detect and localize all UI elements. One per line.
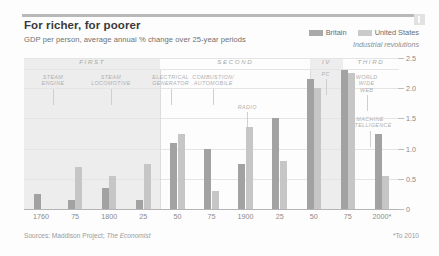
source-note: Sources: Maddison Project; The Economist (24, 232, 150, 239)
bar-united-states (144, 164, 151, 209)
y-tick-label: 0 (406, 205, 410, 214)
x-tick-label: 50 (173, 212, 181, 221)
bar-britain (238, 164, 245, 209)
corner-badge-icon (414, 14, 425, 25)
bar-britain (102, 188, 109, 209)
y-tick-label: 0.5 (406, 174, 416, 183)
legend-item-britain: Britain (309, 28, 347, 37)
chart-page: For richer, for poorer GDP per person, a… (0, 0, 439, 256)
bar-united-states (348, 73, 355, 209)
page-subtitle: GDP per person, average annual % change … (24, 35, 246, 44)
x-tick-label: 25 (276, 212, 284, 221)
bar-britain (68, 200, 75, 209)
x-axis: 176075180025507519002550752000* (24, 212, 399, 224)
gridline (24, 209, 399, 210)
x-tick-label: 1900 (238, 212, 254, 221)
bar-united-states (212, 191, 219, 209)
y-tick-label: 1.0 (406, 144, 416, 153)
y-tick-mark (398, 118, 404, 119)
bar-united-states (246, 127, 253, 209)
x-tick-label: 1760 (33, 212, 49, 221)
y-tick-mark (398, 88, 404, 89)
bar-united-states (314, 88, 321, 209)
y-tick-label: 1.5 (406, 114, 416, 123)
bar-united-states (109, 176, 116, 209)
y-tick-label: 2.5 (406, 54, 416, 63)
bar-britain (307, 79, 314, 209)
legend-label-industrial-revolutions: Industrial revolutions (353, 40, 419, 49)
x-tick-label: 25 (139, 212, 147, 221)
bar-series (24, 58, 399, 209)
bar-britain (136, 200, 143, 209)
bar-united-states (178, 134, 185, 210)
bar-united-states (75, 167, 82, 209)
y-tick-mark (398, 179, 404, 180)
page-title: For richer, for poorer (24, 19, 141, 31)
footnote: *To 2010 (393, 232, 419, 239)
bar-britain (375, 134, 382, 210)
y-tick-mark (398, 209, 404, 210)
legend-item-united-states: United States (358, 28, 419, 37)
x-tick-label: 75 (208, 212, 216, 221)
bar-britain (341, 70, 348, 209)
x-tick-label: 75 (71, 212, 79, 221)
bar-britain (170, 143, 177, 209)
y-tick-mark (398, 58, 404, 59)
bar-united-states (280, 161, 287, 209)
bar-britain (34, 194, 41, 209)
legend-label-britain: Britain (326, 28, 347, 37)
source-publication: The Economist (106, 232, 150, 239)
x-tick-label: 75 (344, 212, 352, 221)
legend-label-united-states: United States (375, 28, 419, 37)
y-axis: 00.51.01.52.02.5 (402, 58, 434, 209)
x-tick-label: 1800 (101, 212, 117, 221)
legend-swatch-britain (309, 30, 323, 36)
plot-area: FIRSTSECONDIVTHIRD STEAMENGINESTEAMLOCOM… (24, 58, 399, 209)
bar-united-states (382, 176, 389, 209)
x-tick-label: 50 (310, 212, 318, 221)
header-rule (22, 14, 418, 17)
legend-swatch-united-states (358, 30, 372, 36)
bar-britain (272, 118, 279, 209)
bar-britain (204, 149, 211, 209)
y-tick-label: 2.0 (406, 84, 416, 93)
x-tick-label: 2000* (373, 212, 392, 221)
source-label: Sources: Maddison Project; (24, 232, 105, 239)
chart-legend: Britain United States (309, 28, 419, 37)
y-tick-mark (398, 149, 404, 150)
